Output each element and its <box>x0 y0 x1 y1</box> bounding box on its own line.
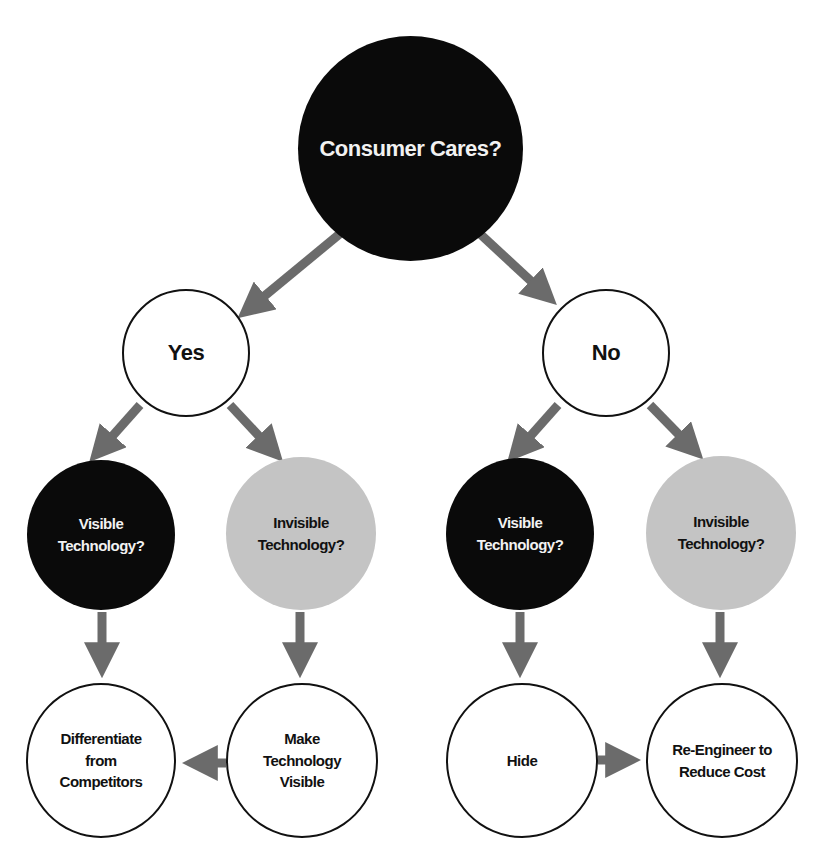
node-label: Make Technology Visible <box>263 728 341 793</box>
node-consumer-cares: Consumer Cares? <box>298 36 523 261</box>
node-label: Consumer Cares? <box>319 133 501 165</box>
node-no-visible-technology: Visible Technology? <box>446 458 594 610</box>
node-yes: Yes <box>122 289 250 417</box>
arrow-yes-to-invisible <box>230 405 272 450</box>
arrow-no-to-invisible <box>650 405 692 448</box>
node-no-invisible-technology: Invisible Technology? <box>646 456 796 610</box>
arrow-root-to-no <box>478 232 545 294</box>
node-make-technology-visible: Make Technology Visible <box>226 683 378 838</box>
node-label: Yes <box>168 337 204 369</box>
node-label: Differentiate from Competitors <box>60 728 143 793</box>
node-yes-visible-technology: Visible Technology? <box>27 460 175 610</box>
node-differentiate-from-competitors: Differentiate from Competitors <box>26 683 176 838</box>
node-label: Visible Technology? <box>477 512 564 556</box>
node-no: No <box>542 289 670 417</box>
node-reengineer-to-reduce-cost: Re-Engineer to Reduce Cost <box>646 683 798 838</box>
node-label: Re-Engineer to Reduce Cost <box>672 739 772 783</box>
decision-tree-diagram: Consumer Cares? Yes No Visible Technolog… <box>0 0 820 860</box>
node-yes-invisible-technology: Invisible Technology? <box>226 457 376 610</box>
arrow-root-to-yes <box>250 232 342 308</box>
node-label: Visible Technology? <box>58 513 145 557</box>
node-hide: Hide <box>446 683 598 838</box>
node-label: Invisible Technology? <box>258 512 345 556</box>
node-label: No <box>592 337 620 369</box>
arrow-no-to-visible <box>518 405 558 450</box>
node-label: Invisible Technology? <box>678 511 765 555</box>
node-label: Hide <box>507 750 538 772</box>
arrow-yes-to-visible <box>100 405 140 450</box>
